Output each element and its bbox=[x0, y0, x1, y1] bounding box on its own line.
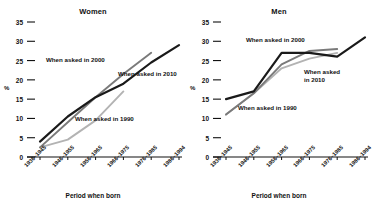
plot-svg-women bbox=[0, 0, 186, 203]
plot-area-women bbox=[0, 0, 186, 203]
y-tick-label: 15 bbox=[191, 96, 209, 103]
plot-area-men bbox=[186, 0, 372, 203]
x-axis-title-women: Period when born bbox=[0, 192, 186, 199]
y-tick-marks-men bbox=[213, 22, 221, 157]
x-axis-title-men: Period when born bbox=[186, 192, 372, 199]
series-annotation: When asked in 1990 bbox=[238, 104, 297, 111]
y-tick-label: 10 bbox=[5, 115, 23, 122]
series-annotation: When asked in 2000 bbox=[46, 56, 105, 63]
series-annotation: When asked in 2000 bbox=[246, 36, 305, 43]
series-annotation: When asked in 2010 bbox=[118, 70, 177, 77]
y-tick-label: 35 bbox=[191, 19, 209, 26]
y-tick-label: 30 bbox=[5, 38, 23, 45]
y-tick-label: 15 bbox=[5, 96, 23, 103]
y-tick-label: 0 bbox=[5, 154, 23, 161]
y-tick-label: 25 bbox=[191, 57, 209, 64]
figure-two-panel-line-charts: Women % Period when born 051015202530351… bbox=[0, 0, 372, 203]
y-tick-label: 10 bbox=[191, 115, 209, 122]
plot-svg-men bbox=[186, 0, 372, 203]
y-tick-label: 30 bbox=[191, 38, 209, 45]
series-annotation: in 2010 bbox=[304, 76, 325, 83]
panel-women: Women % Period when born 051015202530351… bbox=[0, 0, 186, 203]
y-tick-label: 35 bbox=[5, 19, 23, 26]
series-lines-men bbox=[226, 37, 365, 114]
y-tick-label: 20 bbox=[5, 76, 23, 83]
y-tick-marks-women bbox=[27, 22, 35, 157]
series-annotation: When asked in 1990 bbox=[75, 115, 134, 122]
y-tick-label: 20 bbox=[191, 76, 209, 83]
y-tick-label: 5 bbox=[191, 134, 209, 141]
y-tick-label: 0 bbox=[191, 154, 209, 161]
panel-men: Men % Period when born 05101520253035193… bbox=[186, 0, 372, 203]
series-annotation: When asked bbox=[304, 68, 340, 75]
y-tick-label: 5 bbox=[5, 134, 23, 141]
x-axis-line-women bbox=[27, 157, 182, 160]
series-line bbox=[40, 53, 151, 148]
series-line bbox=[226, 37, 365, 99]
y-tick-label: 25 bbox=[5, 57, 23, 64]
x-axis-line-men bbox=[213, 157, 368, 160]
